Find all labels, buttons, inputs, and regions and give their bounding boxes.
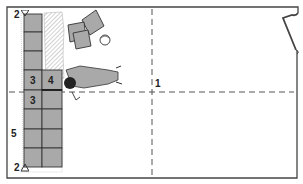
triangle-down-icon xyxy=(21,10,29,17)
triangle-up-icon xyxy=(21,164,29,172)
center-mark-label: 1 xyxy=(155,79,161,89)
top-marker-label: 2 xyxy=(14,10,20,20)
diagram-canvas xyxy=(0,0,303,184)
tiling-diagram: 2 2 3 4 3 5 1 xyxy=(0,0,303,184)
row-label-5: 5 xyxy=(11,129,17,139)
bucket-icon xyxy=(100,35,110,45)
loose-tile-stack xyxy=(68,10,104,49)
tile-label-4: 4 xyxy=(48,76,54,86)
tile-label-3a: 3 xyxy=(30,76,36,86)
tile-label-3b: 3 xyxy=(30,96,36,106)
kneeling-worker-icon xyxy=(64,66,122,100)
door-opening xyxy=(283,13,298,54)
bottom-marker-label: 2 xyxy=(14,163,20,173)
